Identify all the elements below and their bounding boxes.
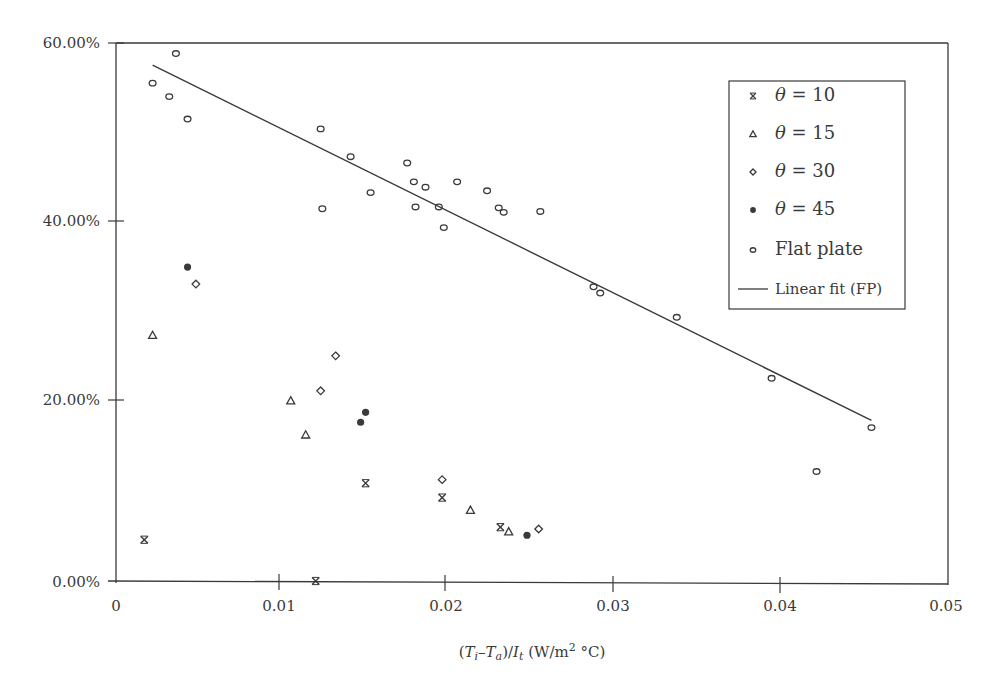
open-circle-data-point — [590, 284, 597, 290]
open-circle-data-point — [813, 469, 820, 475]
open-circle-data-point — [149, 80, 156, 86]
svg-text:Linear fit (FP): Linear fit (FP) — [775, 280, 882, 298]
open-circle-data-point — [500, 210, 507, 216]
open-circle-data-point — [412, 204, 419, 210]
asterisk-data-point — [141, 536, 148, 543]
triangle-data-point — [302, 431, 310, 438]
x-axis-label: (Ti–Ta)/It (W/m2 °C) — [459, 641, 606, 663]
svg-text:θ = 30: θ = 30 — [775, 160, 835, 181]
svg-text:θ = 15: θ = 15 — [775, 122, 835, 143]
open-circle-data-point — [868, 425, 875, 431]
open-circle-data-point — [319, 206, 326, 212]
filled-circle-data-point — [362, 409, 369, 416]
svg-text:θ = 10: θ = 10 — [775, 84, 835, 105]
filled-circle-marker-icon — [750, 207, 756, 213]
x-tick-label: 0.03 — [596, 597, 629, 615]
y-tick-label: 60.00% — [43, 34, 100, 52]
svg-text:Flat plate: Flat plate — [775, 238, 863, 259]
filled-circle-data-point — [184, 263, 191, 270]
legend: θ = 10 θ = 15 θ = 30 θ = 45 Flat plate L… — [729, 81, 905, 309]
filled-circle-data-point — [523, 532, 530, 539]
diamond-data-point — [317, 387, 325, 395]
open-circle-data-point — [173, 51, 180, 57]
x-tick-label: 0.01 — [262, 597, 295, 615]
asterisk-data-point — [439, 494, 446, 501]
y-axis: 60.00% 40.00% 20.00% 0.00% — [43, 34, 124, 591]
x-tick-label: 0.04 — [763, 597, 796, 615]
open-circle-data-point — [597, 290, 604, 296]
scatter-chart: 60.00% 40.00% 20.00% 0.00% 0 0.01 0.02 0… — [0, 0, 996, 694]
open-circle-data-point — [454, 179, 461, 185]
open-circle-data-point — [440, 225, 447, 231]
triangle-data-point — [505, 528, 513, 535]
open-circle-data-point — [673, 314, 680, 320]
triangle-data-point — [149, 331, 157, 338]
asterisk-data-point — [312, 577, 319, 584]
x-tick-label: 0 — [111, 597, 121, 615]
diamond-data-point — [535, 525, 543, 533]
open-circle-data-point — [317, 126, 324, 132]
open-circle-data-point — [166, 94, 173, 100]
open-circle-data-point — [484, 188, 491, 194]
asterisk-data-point — [362, 480, 369, 487]
diamond-data-point — [438, 476, 446, 484]
open-circle-data-point — [347, 154, 354, 160]
open-circle-data-point — [537, 209, 544, 215]
open-circle-data-point — [768, 375, 775, 381]
open-circle-data-point — [367, 190, 374, 196]
x-axis: 0 0.01 0.02 0.03 0.04 0.05 — [111, 574, 962, 615]
triangle-data-point — [287, 397, 295, 404]
svg-text:θ = 45: θ = 45 — [775, 198, 835, 219]
y-tick-label: 40.00% — [43, 212, 100, 230]
open-circle-data-point — [410, 179, 417, 185]
asterisk-data-point — [497, 524, 504, 531]
x-tick-label: 0.05 — [929, 597, 962, 615]
diamond-data-point — [192, 280, 200, 288]
y-tick-label: 0.00% — [52, 573, 100, 591]
x-tick-label: 0.02 — [429, 597, 462, 615]
open-circle-data-point — [422, 184, 429, 190]
triangle-data-point — [466, 506, 474, 513]
open-circle-data-point — [404, 160, 411, 166]
open-circle-data-point — [184, 116, 191, 122]
diamond-data-point — [332, 352, 340, 360]
y-tick-label: 20.00% — [43, 391, 100, 409]
filled-circle-data-point — [357, 419, 364, 426]
